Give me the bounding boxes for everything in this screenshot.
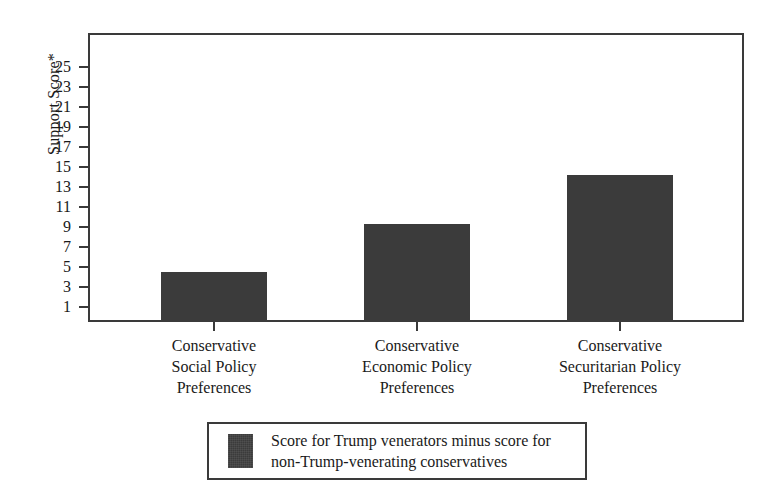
x-axis-tick-mark <box>416 322 418 331</box>
y-axis-tick-label: 19 <box>31 117 71 137</box>
legend: Score for Trump venerators minus score f… <box>207 422 587 480</box>
y-axis-tick-label: 5 <box>31 257 71 277</box>
y-axis-tick-mark <box>79 186 88 188</box>
y-axis-tick-label: 25 <box>31 57 71 77</box>
x-axis-category-label-line: Preferences <box>302 377 532 398</box>
legend-label-line-2: non-Trump-venerating conservatives <box>271 451 551 472</box>
y-axis-tick-label: 3 <box>31 277 71 297</box>
y-axis-tick-mark <box>79 226 88 228</box>
y-axis-tick-mark <box>79 246 88 248</box>
x-axis-category-label-line: Preferences <box>505 377 735 398</box>
legend-label: Score for Trump venerators minus score f… <box>271 430 551 472</box>
x-axis-tick-mark <box>619 322 621 331</box>
x-axis-category-label-line: Securitarian Policy <box>505 356 735 377</box>
y-axis-tick-mark <box>79 266 88 268</box>
x-axis-category-label-line: Conservative <box>505 335 735 356</box>
x-axis-category-label: ConservativeSocial PolicyPreferences <box>99 335 329 398</box>
y-axis-tick-label: 1 <box>31 297 71 317</box>
bar <box>161 272 267 322</box>
y-axis-tick-mark <box>79 106 88 108</box>
x-axis-category-label-line: Conservative <box>302 335 532 356</box>
y-axis-tick-label: 21 <box>31 97 71 117</box>
x-axis-category-label: ConservativeSecuritarian PolicyPreferenc… <box>505 335 735 398</box>
bar <box>567 175 673 322</box>
y-axis-tick-label: 15 <box>31 157 71 177</box>
x-axis-category-label-line: Preferences <box>99 377 329 398</box>
y-axis-tick-mark <box>79 286 88 288</box>
x-axis-category-label-line: Conservative <box>99 335 329 356</box>
y-axis-tick-label: 7 <box>31 237 71 257</box>
y-axis-tick-mark <box>79 146 88 148</box>
y-axis-tick-label: 23 <box>31 77 71 97</box>
y-axis-tick-label: 17 <box>31 137 71 157</box>
y-axis-tick-mark <box>79 86 88 88</box>
x-axis-category-label-line: Economic Policy <box>302 356 532 377</box>
x-axis-category-label: ConservativeEconomic PolicyPreferences <box>302 335 532 398</box>
bar-series-group <box>88 33 744 322</box>
x-axis-tick-mark <box>213 322 215 331</box>
y-axis-tick-label: 13 <box>31 177 71 197</box>
x-axis-category-label-line: Social Policy <box>99 356 329 377</box>
y-axis-tick-mark <box>79 66 88 68</box>
y-axis-tick-mark <box>79 306 88 308</box>
y-axis-tick-mark <box>79 206 88 208</box>
y-axis-tick-label: 9 <box>31 217 71 237</box>
bar <box>364 224 470 322</box>
y-axis-tick-mark <box>79 126 88 128</box>
legend-color-swatch <box>228 434 253 468</box>
y-axis-tick-mark <box>79 166 88 168</box>
y-axis-tick-label: 11 <box>31 197 71 217</box>
bar-chart: Support Score* 135791113151719212325 Con… <box>0 0 768 499</box>
legend-label-line-1: Score for Trump venerators minus score f… <box>271 430 551 451</box>
